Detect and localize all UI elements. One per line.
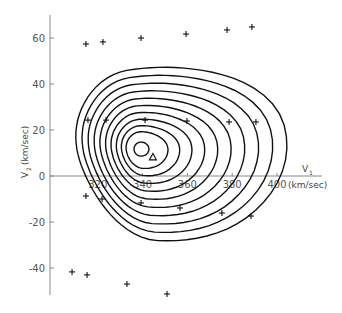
svg-text:V: V [302, 164, 309, 174]
plus-marker [138, 35, 144, 41]
plus-marker [69, 269, 75, 275]
contour-chart: 320340360380400 6040200-20-40 V 1 (km/se… [0, 0, 342, 313]
plus-marker [164, 291, 170, 297]
plus-marker [183, 31, 189, 37]
contour-level [126, 132, 168, 169]
plus-marker [249, 24, 255, 30]
contour-lines [76, 67, 287, 241]
plus-marker [100, 39, 106, 45]
y-tick-label: 60 [32, 33, 45, 44]
x-axis-label: V 1 (km/sec) [288, 164, 327, 190]
plus-marker [226, 119, 232, 125]
y-axis-label: V 2 (km/sec) [20, 126, 32, 178]
contour-level [88, 83, 258, 224]
y-tick-label: 20 [32, 125, 45, 136]
plus-marker [248, 213, 254, 219]
plus-marker [124, 281, 130, 287]
y-tick-label: -40 [29, 263, 45, 274]
svg-text:1: 1 [309, 169, 313, 176]
contour-level [116, 119, 192, 183]
contour-level [134, 142, 149, 156]
plus-marker [224, 27, 230, 33]
svg-text:(km/sec): (km/sec) [20, 126, 30, 165]
y-tick-label: -20 [29, 217, 45, 228]
triangle-marker [149, 153, 156, 160]
svg-text:2: 2 [25, 167, 32, 171]
plus-marker [142, 117, 148, 123]
plus-marker [184, 118, 190, 124]
plus-marker [83, 41, 89, 47]
svg-text:V: V [20, 171, 30, 178]
y-tick-label: 40 [32, 79, 45, 90]
plus-marker [84, 272, 90, 278]
plus-marker [83, 193, 89, 199]
plus-marker [219, 210, 225, 216]
svg-text:(km/sec): (km/sec) [288, 180, 327, 190]
y-tick-label: 0 [39, 171, 45, 182]
